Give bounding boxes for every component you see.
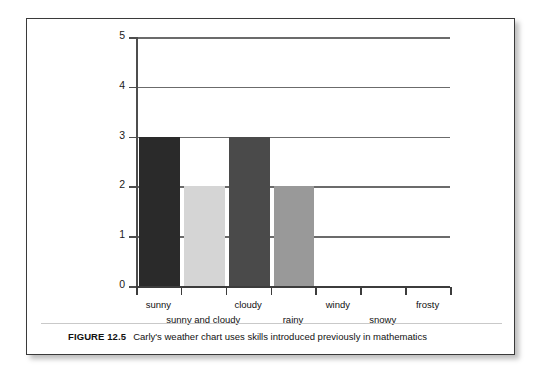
x-axis-label-windy: windy [326,300,350,310]
y-tick-5: 5 [129,37,136,39]
x-axis-label-sunny: sunny [146,300,171,310]
figure-caption: FIGURE 12.5Carly's weather chart uses sk… [68,331,498,343]
x-axis-line [136,286,450,288]
y-tick-mark [129,286,136,288]
y-tick-mark [129,37,136,39]
bar-sunny-and-cloudy [184,186,225,286]
y-tick-label-5: 5 [119,30,125,41]
x-tick-6 [405,287,407,295]
figure-caption-text: Carly's weather chart uses skills introd… [133,331,427,342]
x-axis-label-cloudy: cloudy [234,300,261,310]
y-tick-label-4: 4 [119,80,125,91]
figure-frame: 012345 sunnysunny and cloudycloudyrainyw… [26,18,515,355]
y-tick-mark [129,236,136,238]
y-tick-label-3: 3 [119,130,125,141]
x-tick-1 [181,287,183,295]
caption-divider [41,323,502,324]
y-tick-mark [129,87,136,89]
bar-cloudy [229,137,270,286]
y-tick-4: 4 [129,87,136,89]
x-tick-7 [450,287,452,295]
y-tick-0: 0 [129,286,136,288]
y-tick-2: 2 [129,186,136,188]
bar-rainy [274,186,315,286]
y-tick-mark [129,137,136,139]
x-tick-0 [136,287,138,295]
bar-sunny [139,137,180,286]
bar-chart-plot-area: 012345 sunnysunny and cloudycloudyrainyw… [107,25,503,295]
bar-series [138,37,452,286]
x-axis-label-frosty: frosty [416,300,439,310]
y-tick-label-0: 0 [119,279,125,290]
figure-number: FIGURE 12.5 [68,331,126,342]
x-tick-3 [271,287,273,295]
y-tick-1: 1 [129,236,136,238]
x-tick-2 [226,287,228,295]
x-tick-5 [360,287,362,295]
y-tick-label-1: 1 [119,229,125,240]
y-tick-mark [129,186,136,188]
x-tick-4 [315,287,317,295]
y-tick-label-2: 2 [119,179,125,190]
y-tick-3: 3 [129,137,136,139]
